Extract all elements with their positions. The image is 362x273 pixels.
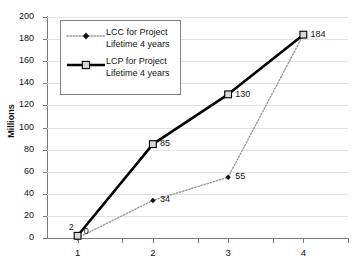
y-axis-tick-label: 80 (0, 145, 34, 154)
dotted-diamond-icon (66, 28, 106, 40)
y-axis-tick-label: 140 (0, 78, 34, 87)
y-axis-tick-label: 100 (0, 123, 34, 132)
lcp-marker (300, 31, 307, 38)
lcc-marker (150, 198, 155, 203)
x-axis-tick-mark (303, 239, 304, 243)
y-axis-tick-label: 40 (0, 189, 34, 198)
lcp-marker (74, 232, 81, 239)
lcp-marker (225, 91, 232, 98)
x-axis-tick-label: 1 (63, 247, 93, 258)
y-axis-tick-label: 200 (0, 12, 34, 21)
label-lcc-2: 34 (160, 195, 170, 204)
x-axis-tick-mark (198, 239, 199, 243)
line-chart: Millions 020406080100120140160180200 123… (0, 0, 362, 273)
y-axis-tick-label: 20 (0, 211, 34, 220)
y-axis-tick-label: 120 (0, 100, 34, 109)
solid-square-icon (66, 57, 106, 69)
x-axis-tick-mark (122, 239, 123, 243)
y-axis-tick-label: 180 (0, 34, 34, 43)
legend: LCC for Project Lifetime 4 years LCP for… (60, 20, 181, 95)
label-lcc-3: 55 (235, 172, 245, 181)
label-shared-4: 184 (310, 30, 325, 39)
label-lcc-1: 0 (84, 227, 89, 236)
x-axis-tick-label: 3 (213, 247, 243, 258)
label-lcp-1: 2 (69, 223, 74, 232)
legend-item-lcp[interactable]: LCP for Project Lifetime 4 years (61, 50, 180, 79)
x-axis-tick-mark (273, 239, 274, 243)
legend-label-lcp: LCP for Project Lifetime 4 years (106, 56, 170, 79)
lcc-marker (225, 175, 230, 180)
y-axis-tick-label: 0 (0, 233, 34, 242)
x-axis-tick-label: 2 (138, 247, 168, 258)
x-axis-tick-mark (228, 239, 229, 243)
legend-item-lcc[interactable]: LCC for Project Lifetime 4 years (61, 25, 180, 50)
y-axis-tick-mark (43, 238, 47, 239)
legend-label-lcc: LCC for Project Lifetime 4 years (106, 27, 170, 50)
x-axis-end-tick (348, 239, 349, 243)
label-lcp-2: 85 (160, 139, 170, 148)
x-axis-tick-mark (153, 239, 154, 243)
x-axis-tick-label: 4 (288, 247, 318, 258)
y-axis-tick-label: 60 (0, 167, 34, 176)
y-axis-tick-label: 160 (0, 56, 34, 65)
lcp-marker (149, 141, 156, 148)
label-lcp-3: 130 (235, 90, 250, 99)
